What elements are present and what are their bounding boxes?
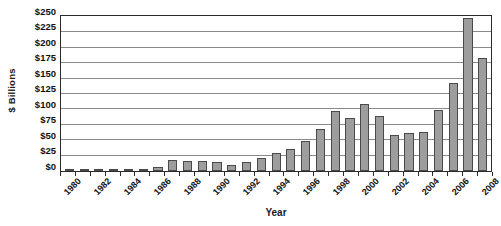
y-tick-label: $250 [35,5,56,16]
bar [331,111,340,171]
bar-slot [431,16,446,171]
plot-area [60,15,492,172]
bar-slot [195,16,210,171]
x-tick-label: 1990 [211,176,232,197]
y-axis-title-text: $ Billions [6,68,17,112]
bar [316,129,325,171]
bar-slot [298,16,313,171]
x-tick-label: 1980 [62,176,83,197]
bar-slot [151,16,166,171]
x-tick-label: 1994 [271,176,292,197]
bar-slot [475,16,490,171]
bar-slot [372,16,387,171]
bar-slot [461,16,476,171]
bar-slot [210,16,225,171]
bar [153,167,162,171]
bar [286,149,295,171]
bar [419,132,428,171]
bar-slot [343,16,358,171]
bar [478,58,487,171]
bar-slot [136,16,151,171]
bar-slot [180,16,195,171]
bar-slot [165,16,180,171]
bar-slot [121,16,136,171]
y-axis-title: $ Billions [0,0,22,180]
bar-slot [387,16,402,171]
bar [227,165,236,171]
bar [272,153,281,171]
bar [65,169,74,171]
x-tick-label: 1996 [301,176,322,197]
bar-slot [416,16,431,171]
x-tick-label: 1992 [241,176,262,197]
x-tick-label: 1988 [181,176,202,197]
bar-slot [283,16,298,171]
x-tick-label: 1984 [122,176,143,197]
bar-slot [62,16,77,171]
bar [80,169,89,171]
bar [360,104,369,171]
bar [345,118,354,171]
y-axis-tick-labels: $0$25$50$75$100$125$150$175$200$225$250 [20,9,58,173]
y-tick-label: $0 [45,160,56,171]
y-tick-label: $150 [35,67,56,78]
bar [463,18,472,171]
bar [183,161,192,171]
bar [390,135,399,171]
bar-slot [77,16,92,171]
bar-slot [313,16,328,171]
bar [242,162,251,171]
bar-slot [254,16,269,171]
bar [212,162,221,171]
bar-slot [239,16,254,171]
y-tick-label: $175 [35,52,56,63]
x-tick-label: 1986 [152,176,173,197]
bar [301,141,310,171]
y-tick-label: $25 [40,145,56,156]
bar [139,169,148,171]
y-tick-label: $125 [35,83,56,94]
y-tick-label: $225 [35,21,56,32]
x-tick-label: 2000 [360,176,381,197]
bar-slot [402,16,417,171]
x-tick-label: 2008 [479,176,500,197]
bar [449,83,458,171]
bar [198,161,207,171]
bars-container [61,16,491,171]
y-tick-label: $75 [40,114,56,125]
bar [94,169,103,171]
x-tick-label: 1998 [330,176,351,197]
y-tick-label: $50 [40,129,56,140]
x-tick-label: 2002 [390,176,411,197]
bar-slot [328,16,343,171]
bar-slot [357,16,372,171]
bar [375,116,384,171]
bar-slot [269,16,284,171]
bar-slot [92,16,107,171]
bar [109,169,118,171]
bar [124,169,133,171]
x-tick-label: 2006 [450,176,471,197]
x-tick-label: 2004 [420,176,441,197]
x-tick-label: 1982 [92,176,113,197]
bar-slot [106,16,121,171]
bar-slot [224,16,239,171]
bar [434,110,443,171]
x-axis-title: Year [60,207,492,218]
bar [168,160,177,171]
y-tick-label: $100 [35,98,56,109]
y-tick-label: $200 [35,36,56,47]
bar [257,158,266,171]
x-axis-tick-labels: 1980198219841986198819901992199419961998… [60,176,492,208]
bar [404,133,413,171]
bar-slot [446,16,461,171]
